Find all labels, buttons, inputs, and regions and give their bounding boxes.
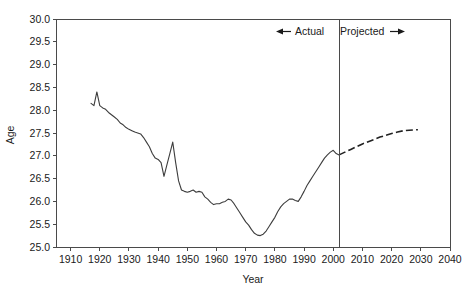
y-tick-label: 27.5 [30,127,51,139]
y-tick-label: 28.5 [30,81,51,93]
projected-annotation-label: Projected [340,25,385,37]
y-tick-label: 25.0 [30,241,51,253]
y-tick-label: 29.5 [30,35,51,47]
x-tick-label: 2010 [351,253,375,265]
x-tick-label: 2000 [322,253,346,265]
y-tick-label: 29.0 [30,58,51,70]
y-tick-label: 25.5 [30,218,51,230]
x-tick-label: 1910 [59,253,83,265]
x-tick-marks [71,247,450,251]
y-axis-title: Age [4,126,16,145]
x-tick-label: 1940 [146,253,170,265]
y-tick-labels: 25.025.526.026.527.027.528.028.529.029.5… [30,13,51,253]
y-tick-marks [53,19,57,247]
line-chart-canvas: 25.025.526.026.527.027.528.028.529.029.5… [0,0,470,301]
x-tick-label: 1920 [88,253,112,265]
y-tick-label: 30.0 [30,13,51,25]
x-tick-label: 2030 [409,253,433,265]
x-tick-label: 1930 [117,253,141,265]
y-tick-label: 27.0 [30,149,51,161]
y-tick-label: 26.0 [30,195,51,207]
x-tick-label: 1970 [234,253,258,265]
x-tick-label: 1980 [263,253,287,265]
chart-figure: 25.025.526.026.527.027.528.028.529.029.5… [0,0,470,301]
x-tick-labels: 1910192019301940195019601970198019902000… [59,253,462,265]
x-axis-title: Year [242,273,264,285]
x-tick-label: 1960 [205,253,229,265]
x-tick-label: 2040 [438,253,462,265]
y-tick-label: 28.0 [30,104,51,116]
x-tick-label: 1950 [176,253,200,265]
y-tick-label: 26.5 [30,172,51,184]
x-tick-label: 2020 [380,253,404,265]
x-tick-label: 1990 [292,253,316,265]
actual-annotation-label: Actual [295,25,324,37]
